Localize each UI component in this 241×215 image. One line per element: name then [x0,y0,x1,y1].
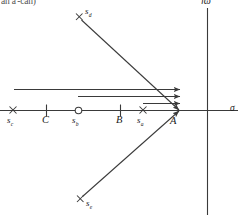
marker-label-A: A [170,116,176,127]
sigma-axis-label: σ [230,104,235,114]
marker-label-se-base: s [86,198,90,208]
marker-label-sb: sb [72,116,78,125]
marker-label-se-sub: e [90,204,92,210]
marker-label-sb-base: s [72,115,76,125]
marker-label-sc: sc [7,116,13,125]
marker-label-sa: sa [137,116,143,125]
marker-label-se: se [86,199,92,208]
marker-label-sa-sub: a [141,121,144,127]
jomega-axis-label: jω [201,0,211,4]
plot-canvas [0,0,241,215]
marker-label-sd: sd [85,7,91,16]
marker-label-sc-base: s [7,115,11,125]
marker-label-sc-sub: c [11,121,13,127]
marker-label-sd-sub: d [89,12,92,18]
zero-marker-sb [75,107,82,114]
caption-fragment: an a'-can) [1,0,61,6]
vector-se-to-A [83,111,180,197]
marker-label-sd-base: s [85,6,89,16]
marker-label-B: B [116,115,122,126]
marker-label-sa-base: s [137,115,141,125]
s-plane-figure: an a'-can) jω σ sc C sb B sa A sd se [0,0,241,215]
pole-marker-sd [76,14,83,21]
marker-label-C: C [42,115,49,126]
marker-label-sb-sub: b [76,121,79,127]
